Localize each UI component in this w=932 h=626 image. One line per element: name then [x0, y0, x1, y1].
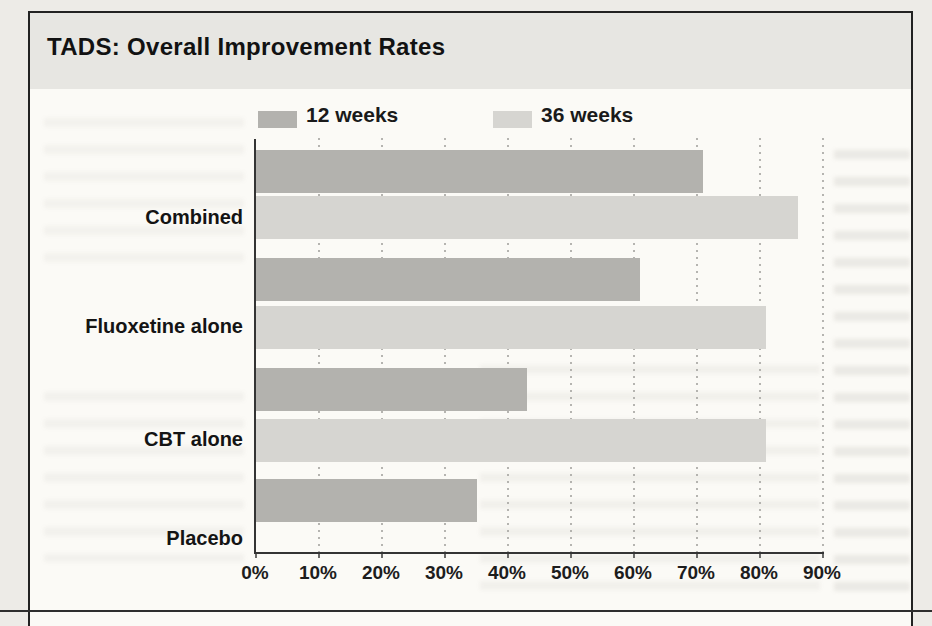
- category-label-combined: Combined: [30, 206, 243, 229]
- x-tick-mark-70-: [696, 554, 698, 558]
- bar-cbt-alone-36-weeks: [256, 419, 766, 462]
- x-tick-mark-10-: [318, 554, 320, 558]
- bar-combined-36-weeks: [256, 196, 798, 239]
- legend-label-36-weeks: 36 weeks: [541, 103, 633, 127]
- category-label-cbt-alone: CBT alone: [30, 428, 243, 451]
- x-tick-mark-60-: [633, 554, 635, 558]
- x-tick-label-30-: 30%: [414, 562, 474, 584]
- y-axis-line: [254, 139, 256, 553]
- category-label-fluoxetine-alone: Fluoxetine alone: [30, 315, 243, 338]
- x-tick-label-0-: 0%: [225, 562, 285, 584]
- x-tick-mark-20-: [381, 554, 383, 558]
- x-tick-label-40-: 40%: [477, 562, 537, 584]
- x-tick-mark-40-: [507, 554, 509, 558]
- bar-cbt-alone-12-weeks: [256, 368, 527, 411]
- page-bottom-rule: [0, 610, 932, 612]
- x-tick-label-20-: 20%: [351, 562, 411, 584]
- figure-title: TADS: Overall Improvement Rates: [47, 33, 445, 61]
- x-tick-mark-0-: [255, 554, 257, 558]
- x-axis-line: [254, 552, 824, 554]
- x-tick-mark-80-: [759, 554, 761, 558]
- x-tick-mark-30-: [444, 554, 446, 558]
- x-tick-label-80-: 80%: [729, 562, 789, 584]
- x-tick-label-90-: 90%: [792, 562, 852, 584]
- bar-fluoxetine-alone-12-weeks: [256, 258, 640, 301]
- x-tick-mark-50-: [570, 554, 572, 558]
- legend-swatch-36-weeks: [493, 111, 532, 128]
- category-label-placebo: Placebo: [30, 527, 243, 550]
- x-tick-mark-90-: [822, 554, 824, 558]
- bar-fluoxetine-alone-36-weeks: [256, 306, 766, 349]
- legend-label-12-weeks: 12 weeks: [306, 103, 398, 127]
- x-tick-label-50-: 50%: [540, 562, 600, 584]
- gridline-90-: [822, 138, 824, 552]
- scanned-page: TADS: Overall Improvement Rates 12 weeks…: [0, 0, 932, 626]
- x-tick-label-10-: 10%: [288, 562, 348, 584]
- bar-combined-12-weeks: [256, 150, 703, 193]
- bar-placebo-12-weeks: [256, 479, 477, 522]
- legend-swatch-12-weeks: [258, 111, 297, 128]
- x-tick-label-60-: 60%: [603, 562, 663, 584]
- x-tick-label-70-: 70%: [666, 562, 726, 584]
